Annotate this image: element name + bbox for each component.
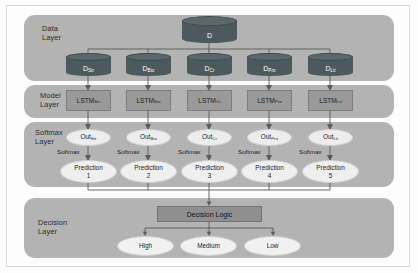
softmax-step-label: Softmax (238, 148, 261, 155)
data-shard-label: DBio (126, 65, 171, 74)
prediction-index: 2 (147, 172, 151, 179)
data-shard-text: D (204, 65, 209, 72)
prediction-ellipse[interactable]: Prediction4 (241, 160, 298, 183)
prediction-label: Prediction (74, 164, 102, 171)
output-ellipse[interactable]: OutCr (187, 129, 232, 146)
model-box-label: LSTM (198, 97, 216, 104)
output-label: Out (140, 133, 150, 140)
decision-logic-box[interactable]: Decision Logic (157, 206, 262, 222)
data-shard-text: D (142, 65, 147, 72)
output-ellipse[interactable]: OutPro (247, 129, 292, 146)
softmax-step-label: Softmax (299, 148, 322, 155)
output-ellipse[interactable]: OutLit (308, 129, 353, 146)
data-shard-cylinder[interactable]: DStr (66, 54, 111, 76)
output-subscript: Bio (150, 136, 157, 141)
output-label: Out (261, 133, 271, 140)
layer-label-data: Data Layer (42, 24, 82, 42)
prediction-label: Prediction (134, 164, 162, 171)
model-box-lstm[interactable]: LSTMStr (66, 90, 111, 111)
model-box-lstm[interactable]: LSTMPro (247, 90, 292, 111)
prediction-ellipse[interactable]: Prediction1 (60, 160, 117, 183)
cylinder-lid-icon (247, 53, 292, 61)
prediction-ellipse[interactable]: Prediction3 (181, 160, 238, 183)
model-box-subscript: Pro (275, 99, 282, 104)
data-root-cylinder[interactable]: D (182, 17, 237, 43)
model-box-label: LSTM (77, 97, 95, 104)
decision-outcome-medium[interactable]: Medium (180, 236, 237, 256)
prediction-label: Prediction (195, 164, 223, 171)
output-label: Out (202, 133, 212, 140)
output-subscript: Str (91, 136, 97, 141)
model-box-lstm[interactable]: LSTMLit (308, 90, 353, 111)
output-ellipse[interactable]: OutBio (126, 129, 171, 146)
data-shard-cylinder[interactable]: DPro (247, 54, 292, 76)
decision-outcome-high[interactable]: High (117, 236, 174, 256)
data-root-text: D (207, 32, 212, 39)
decision-outcome-low[interactable]: Low (244, 236, 301, 256)
prediction-ellipse[interactable]: Prediction5 (302, 160, 359, 183)
data-shard-subscript: Cr (210, 68, 215, 73)
model-box-label: LSTM (257, 97, 275, 104)
model-box-subscript: Str (94, 99, 100, 104)
data-shard-label: DCr (187, 65, 232, 74)
output-subscript: Pro (271, 136, 278, 141)
output-subscript: Cr (212, 136, 217, 141)
prediction-label: Prediction (255, 164, 283, 171)
decision-outcome-label: High (139, 242, 152, 250)
decision-outcome-label: Medium (197, 242, 220, 250)
model-box-lstm[interactable]: LSTMCr (187, 90, 232, 111)
data-shard-label: DLit (308, 65, 353, 74)
prediction-index: 5 (329, 172, 333, 179)
decision-outcome-label: Low (267, 242, 279, 250)
output-label: Out (80, 133, 90, 140)
output-ellipse[interactable]: OutStr (66, 129, 111, 146)
output-label: Out (323, 133, 333, 140)
layer-label-decision: Decision Layer (38, 218, 83, 236)
data-shard-subscript: Str (88, 68, 94, 73)
prediction-label: Prediction (316, 164, 344, 171)
prediction-ellipse[interactable]: Prediction2 (120, 160, 177, 183)
cylinder-lid-icon (126, 53, 171, 61)
cylinder-lid-icon (182, 16, 237, 26)
softmax-step-label: Softmax (178, 148, 201, 155)
data-shard-cylinder[interactable]: DCr (187, 54, 232, 76)
model-box-subscript: Cr (216, 99, 221, 104)
data-shard-cylinder[interactable]: DLit (308, 54, 353, 76)
model-box-lstm[interactable]: LSTMBio (126, 90, 171, 111)
cylinder-lid-icon (66, 53, 111, 61)
model-box-label: LSTM (319, 97, 337, 104)
data-shard-label: DStr (66, 65, 111, 74)
data-shard-label: DPro (247, 65, 292, 74)
decision-logic-label: Decision Logic (187, 211, 233, 218)
softmax-step-label: Softmax (57, 148, 80, 155)
data-shard-cylinder[interactable]: DBio (126, 54, 171, 76)
softmax-step-label: Softmax (117, 148, 140, 155)
cylinder-lid-icon (187, 53, 232, 61)
model-box-subscript: Lit (337, 99, 342, 104)
prediction-index: 3 (208, 172, 212, 179)
output-subscript: Lit (333, 136, 338, 141)
prediction-index: 1 (87, 172, 91, 179)
cylinder-lid-icon (308, 53, 353, 61)
data-shard-subscript: Pro (268, 68, 275, 73)
model-box-subscript: Bio (154, 99, 161, 104)
diagram-canvas: Data Layer Model Layer Softmax Layer Dec… (0, 0, 418, 273)
data-shard-subscript: Bio (148, 68, 155, 73)
prediction-index: 4 (268, 172, 272, 179)
model-box-label: LSTM (136, 97, 154, 104)
data-shard-subscript: Lit (330, 68, 335, 73)
data-root-label: D (182, 32, 237, 40)
